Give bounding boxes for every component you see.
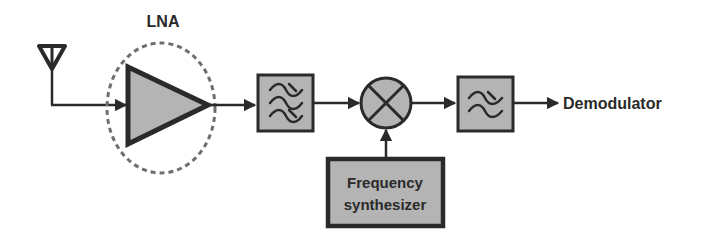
lna-block: LNA [107,13,215,173]
synthesizer-label-line2: synthesizer [344,196,427,213]
demodulator-label: Demodulator [563,95,662,112]
receiver-block-diagram: LNA Frequency synthesizer [0,0,719,243]
bandpass-filter-block [258,75,313,131]
amplifier-triangle-icon [128,67,208,144]
antenna-icon [39,46,65,105]
synthesizer-label-line1: Frequency [347,174,424,191]
lowpass-filter-block [458,77,513,131]
frequency-synthesizer-block: Frequency synthesizer [328,159,443,226]
lna-label: LNA [147,13,180,30]
mixer-block [361,78,411,128]
